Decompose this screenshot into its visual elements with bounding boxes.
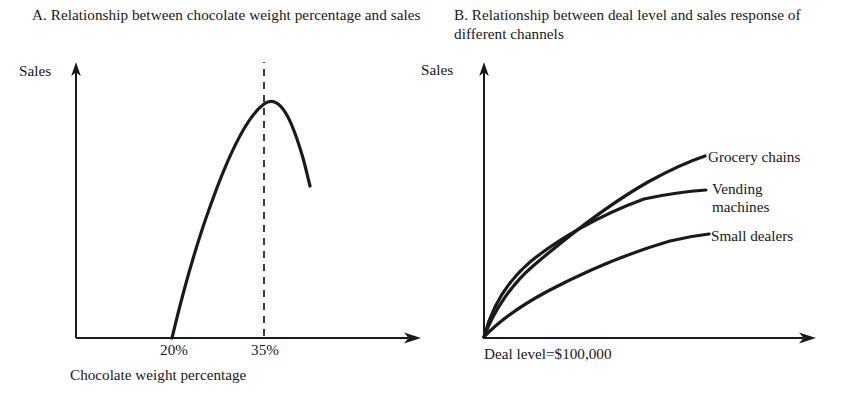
panel-b-curve-small-dealers xyxy=(484,234,709,337)
plot-layer xyxy=(0,0,844,396)
panel-b-plot xyxy=(479,62,816,343)
figure-root: A. Relationship between chocolate weight… xyxy=(0,0,844,396)
panel-b-curve-vending-machines xyxy=(484,190,706,337)
panel-a-sales-curve xyxy=(172,101,310,338)
panel-a-plot xyxy=(71,62,421,343)
